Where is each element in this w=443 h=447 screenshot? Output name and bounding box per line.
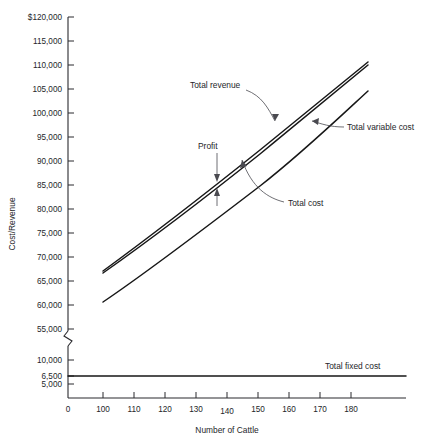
y-tick-label: 110,000	[33, 61, 62, 70]
y-tick-label: 10,000	[37, 356, 62, 365]
annotation-label-total-revenue: Total revenue	[190, 80, 241, 90]
y-axis-title: Cost/Revenue	[7, 197, 17, 250]
x-tick-label: 140	[220, 407, 234, 416]
x-tick-label: 180	[344, 405, 358, 414]
cost-revenue-line-chart: $120,000 115,000 110,000 105,000 100,000…	[0, 0, 443, 447]
annotation-label-total-cost: Total cost	[288, 198, 324, 208]
annotation-total-fixed-cost: Total fixed cost	[325, 361, 381, 371]
x-tick-label: 130	[189, 405, 203, 414]
y-tick-label: 80,000	[37, 205, 62, 214]
x-tick-label: 160	[282, 405, 296, 414]
y-tick-label: 55,000	[37, 325, 62, 334]
chart-container: $120,000 115,000 110,000 105,000 100,000…	[0, 0, 443, 447]
y-tick-label: 65,000	[37, 277, 62, 286]
x-tick-label: 100	[96, 405, 110, 414]
y-tick-label: 75,000	[37, 229, 62, 238]
x-tick-label: 150	[251, 405, 265, 414]
y-tick-label: 95,000	[37, 133, 62, 142]
chart-background	[0, 0, 443, 447]
x-tick-label: 120	[158, 405, 172, 414]
y-tick-label: 115,000	[33, 37, 62, 46]
x-tick-label: 0	[66, 405, 71, 414]
y-tick-label: 100,000	[32, 109, 62, 118]
x-tick-label: 110	[127, 405, 140, 414]
y-tick-label: 5,000	[42, 380, 63, 389]
annotation-label-total-variable-cost: Total variable cost	[347, 122, 415, 132]
y-tick-label: 105,000	[32, 85, 62, 94]
annotation-label-total-fixed-cost: Total fixed cost	[325, 361, 381, 371]
y-tick-label: 90,000	[37, 157, 62, 166]
y-tick-label: 70,000	[37, 253, 62, 262]
y-tick-label: $120,000	[28, 13, 63, 22]
x-tick-label: 170	[313, 405, 327, 414]
y-tick-label: 60,000	[37, 301, 62, 310]
y-tick-label: 85,000	[37, 181, 62, 190]
annotation-label-profit: Profit	[198, 141, 218, 151]
x-axis-title: Number of Cattle	[195, 425, 259, 435]
y-axis-tick-labels-lower: 10,000 6,500 5,000	[37, 356, 62, 389]
